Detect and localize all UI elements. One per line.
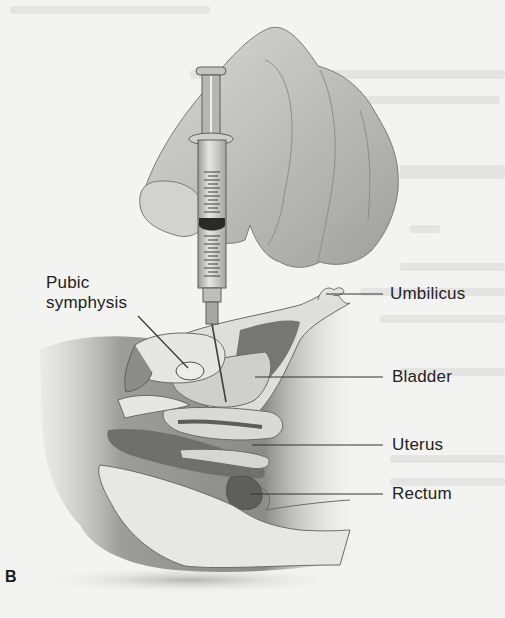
syringe-hub <box>203 288 221 302</box>
syringe-plunger-cap <box>196 67 226 75</box>
panel-label: B <box>5 568 17 586</box>
syringe-stopper <box>199 218 225 231</box>
label-bladder: Bladder <box>392 367 452 387</box>
label-pubic-symphysis-line1: Pubic <box>46 273 166 293</box>
label-umbilicus: Umbilicus <box>390 284 465 304</box>
syringe-barrel <box>198 140 226 288</box>
label-pubic-symphysis-line2: symphysis <box>46 293 166 313</box>
pubic-symphysis-oval <box>176 362 204 380</box>
figure-page: Pubic symphysis Umbilicus Bladder Uterus… <box>0 0 505 618</box>
label-rectum: Rectum <box>392 484 452 504</box>
label-pubic-symphysis: Pubic symphysis <box>46 273 166 313</box>
label-uterus: Uterus <box>392 435 443 455</box>
